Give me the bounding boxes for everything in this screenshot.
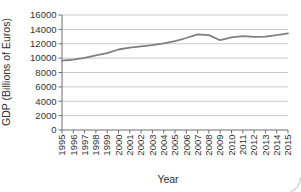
x-tick-labels: 1995199619971998199920002001200220032004… [56, 135, 293, 156]
gdp-line [62, 33, 288, 60]
x-tick-label: 1996 [68, 135, 79, 156]
y-tick-labels: 0200040006000800010000120001400016000 [30, 9, 56, 135]
gdp-series-line [62, 33, 288, 60]
container-corner-artifact [291, 178, 301, 192]
x-tick-label: 2006 [181, 135, 192, 156]
gdp-line-chart: 0200040006000800010000120001400016000 19… [0, 0, 301, 192]
y-tick-label: 6000 [35, 81, 56, 92]
x-tick-label: 2000 [113, 135, 124, 156]
chart-screenshot: 0200040006000800010000120001400016000 19… [0, 0, 301, 192]
x-tick-label: 2003 [147, 135, 158, 156]
y-tick-label: 8000 [35, 67, 56, 78]
x-tick-label: 2001 [124, 135, 135, 156]
x-tick-label: 2013 [260, 135, 271, 156]
x-tick-label: 2004 [158, 135, 169, 156]
y-tick-label: 14000 [30, 24, 56, 35]
y-tick-label: 16000 [30, 9, 56, 20]
x-tick-label: 2011 [237, 135, 248, 155]
y-tick-label: 10000 [30, 52, 56, 63]
x-tick-label: 2008 [203, 135, 214, 156]
x-tick-label: 2009 [214, 135, 225, 156]
x-axis-title: Year [157, 173, 179, 185]
y-tick-label: 2000 [35, 110, 56, 121]
y-tick-label: 12000 [30, 38, 56, 49]
x-tick-label: 2005 [169, 135, 180, 156]
x-tick-label: 1995 [56, 135, 67, 156]
x-tick-label: 2010 [226, 135, 237, 156]
x-tick-label: 2012 [248, 135, 259, 156]
x-tick-label: 2015 [282, 135, 293, 156]
gridlines [62, 15, 288, 116]
y-tick-label: 4000 [35, 96, 56, 107]
x-tick-label: 2007 [192, 135, 203, 156]
x-tick-label: 1997 [79, 135, 90, 156]
x-tick-label: 2014 [271, 135, 282, 156]
x-tick-label: 1998 [90, 135, 101, 156]
y-tick-label: 0 [51, 124, 56, 135]
y-axis-title: GDP (Billions of Euros) [0, 18, 12, 126]
x-tick-label: 2002 [135, 135, 146, 156]
x-tick-label: 1999 [101, 135, 112, 156]
